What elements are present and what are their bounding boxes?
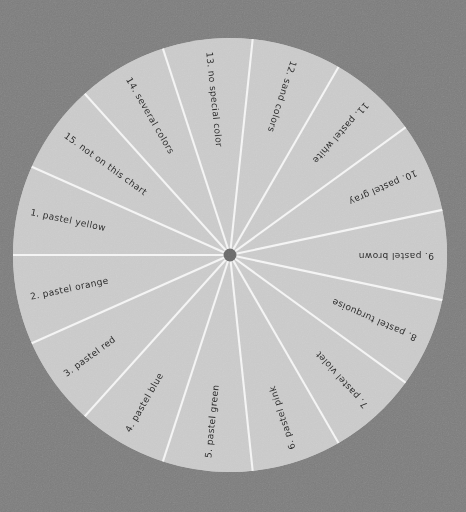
color-wheel-chart: 1. pastel yellow2. pastel orange3. paste… bbox=[0, 0, 466, 512]
center-hub bbox=[224, 249, 237, 262]
slice-label-9: 9. pastel brown bbox=[358, 251, 434, 261]
pie-chart-canvas: 1. pastel yellow2. pastel orange3. paste… bbox=[0, 0, 466, 512]
